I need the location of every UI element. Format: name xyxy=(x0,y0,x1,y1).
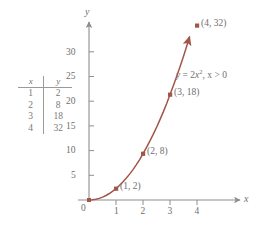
y-tick-label-5: 5 xyxy=(71,170,76,180)
x-tick-label-4: 4 xyxy=(195,206,200,216)
point-label-2-8: (2, 8) xyxy=(147,146,168,156)
x-tick-label-3: 3 xyxy=(168,206,173,216)
data-point-4-32 xyxy=(195,24,199,28)
origin-label: 0 xyxy=(81,203,86,213)
y-tick-label-10: 10 xyxy=(66,145,76,155)
table-header-row: x y xyxy=(18,76,72,88)
x-axis-ticks xyxy=(116,200,197,205)
point-label-4-32: (4, 32) xyxy=(201,18,226,28)
plot-area: 5 10 15 20 25 30 1 2 3 4 0 y x (1, 2) (2… xyxy=(72,0,256,227)
point-label-1-2: (1, 2) xyxy=(120,181,141,191)
equation-condition: , x > 0 xyxy=(203,70,227,80)
table-cell-x: 4 xyxy=(18,123,44,135)
data-point-3-18 xyxy=(168,93,172,97)
point-label-3-18: (3, 18) xyxy=(174,87,199,97)
xy-table: x y 1 2 2 8 3 18 4 32 xyxy=(18,76,72,134)
table-row: 1 2 xyxy=(18,88,72,100)
y-tick-label-30: 30 xyxy=(66,47,76,57)
y-tick-label-20: 20 xyxy=(66,96,76,106)
equation-annotation: y = 2x2, x > 0 xyxy=(176,68,227,80)
equation-eq: = 2 xyxy=(180,70,195,80)
table-cell-x: 3 xyxy=(18,111,44,123)
x-tick-label-1: 1 xyxy=(114,206,119,216)
table-cell-x: 2 xyxy=(18,100,44,112)
table-row: 3 18 xyxy=(18,111,72,123)
data-point-origin xyxy=(87,198,91,202)
x-tick-label-2: 2 xyxy=(141,206,146,216)
data-point-1-2 xyxy=(114,187,118,191)
table-row: 2 8 xyxy=(18,100,72,112)
data-points xyxy=(87,24,199,203)
x-axis-label: x xyxy=(244,193,248,204)
table-cell-x: 1 xyxy=(18,88,44,100)
table-header-x: x xyxy=(18,76,44,88)
y-tick-label-15: 15 xyxy=(66,121,76,131)
table-row: 4 32 xyxy=(18,123,72,135)
quadratic-curve xyxy=(89,37,190,200)
table-header: x y xyxy=(18,76,72,88)
value-table: x y 1 2 2 8 3 18 4 32 xyxy=(18,76,72,134)
table-body: 1 2 2 8 3 18 4 32 xyxy=(18,88,72,135)
figure-container: x y 1 2 2 8 3 18 4 32 xyxy=(0,0,256,227)
y-axis-ticks xyxy=(89,52,94,176)
y-axis-label: y xyxy=(85,6,89,17)
data-point-2-8 xyxy=(141,152,145,156)
plot-svg xyxy=(72,0,256,227)
y-tick-label-25: 25 xyxy=(66,71,76,81)
